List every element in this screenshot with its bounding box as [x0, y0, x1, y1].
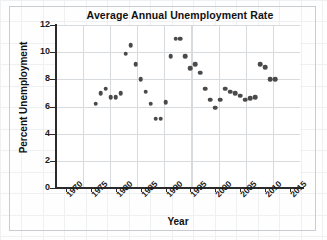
data-point	[273, 77, 278, 82]
data-point	[158, 116, 163, 121]
data-point	[223, 87, 228, 92]
y-tick	[50, 161, 56, 162]
data-point	[118, 91, 123, 96]
data-point	[138, 77, 143, 82]
data-point	[258, 62, 263, 67]
y-tick	[50, 188, 56, 189]
data-point	[233, 91, 238, 96]
y-tick-label: 0	[30, 182, 50, 192]
data-point	[198, 70, 203, 75]
y-tick	[50, 134, 56, 135]
y-tick-label: 6	[30, 101, 50, 111]
data-point	[163, 100, 168, 105]
plot-gridlines	[56, 25, 300, 188]
plot-area	[56, 25, 300, 188]
data-point	[268, 77, 273, 82]
data-point	[123, 51, 128, 56]
data-point	[213, 106, 218, 111]
data-point	[238, 93, 243, 98]
data-point	[253, 95, 258, 100]
data-point	[243, 97, 248, 102]
data-point	[188, 66, 193, 71]
chart-page: Average Annual Unemployment Rate 0246810…	[0, 0, 327, 240]
y-axis-title: Percent Unemployment	[18, 23, 29, 173]
y-tick	[50, 107, 56, 108]
data-point	[103, 87, 108, 92]
data-point	[143, 89, 148, 94]
data-point	[99, 91, 104, 96]
data-point	[203, 87, 208, 92]
data-point	[133, 62, 138, 67]
data-point	[178, 36, 183, 41]
y-tick	[50, 79, 56, 80]
y-tick-label: 10	[30, 46, 50, 56]
chart-title: Average Annual Unemployment Rate	[70, 9, 290, 21]
data-point	[218, 97, 223, 102]
data-point	[248, 96, 253, 101]
y-tick-label: 12	[30, 19, 50, 29]
y-tick	[50, 52, 56, 53]
data-point	[208, 97, 213, 102]
y-tick	[50, 25, 56, 26]
data-point	[108, 95, 113, 100]
data-point	[128, 43, 133, 48]
y-axis-tick-labels: 024681012	[26, 0, 50, 240]
data-point	[263, 65, 268, 70]
x-axis-title: Year	[56, 216, 300, 227]
y-tick-label: 2	[30, 155, 50, 165]
data-point	[94, 101, 99, 106]
data-point	[173, 36, 178, 41]
data-point	[168, 54, 173, 59]
data-point	[193, 62, 198, 67]
y-tick-label: 8	[30, 73, 50, 83]
data-point	[148, 101, 153, 106]
y-tick-label: 4	[30, 128, 50, 138]
data-point	[113, 95, 118, 100]
data-point	[183, 54, 188, 59]
data-point	[228, 89, 233, 94]
data-point	[153, 116, 158, 121]
